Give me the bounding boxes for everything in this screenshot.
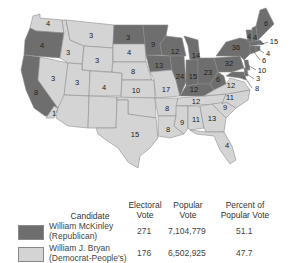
- percent-mckinley: 51.1: [236, 226, 253, 236]
- header-popular-line1: Popular: [168, 200, 208, 210]
- header-electoral-line2: Vote: [125, 210, 165, 220]
- header-popular-line2: Vote: [168, 210, 208, 220]
- header-percent-line2: Popular Vote: [215, 210, 275, 220]
- candidate-bryan: William J. Bryan (Democrat-People's): [49, 243, 127, 263]
- candidate-name: William J. Bryan: [49, 243, 127, 253]
- popular-vote-mckinley: 7,104,779: [168, 226, 206, 236]
- electoral-vote-mckinley: 271: [137, 226, 151, 236]
- percent-bryan: 47.7: [236, 248, 253, 258]
- results-table: Candidate Electoral Vote Popular Vote Pe…: [0, 0, 290, 263]
- header-popular-vote: Popular Vote: [168, 200, 208, 220]
- header-percent-popular: Percent of Popular Vote: [215, 200, 275, 220]
- popular-vote-bryan: 6,502,925: [168, 248, 206, 258]
- swatch-republican: [18, 225, 44, 240]
- candidate-party: (Democrat-People's): [49, 253, 127, 263]
- header-candidate: Candidate: [55, 211, 125, 221]
- header-electoral-line1: Electoral: [125, 200, 165, 210]
- candidate-party: (Republican): [49, 231, 113, 241]
- candidate-mckinley: William McKinley (Republican): [49, 221, 113, 241]
- electoral-vote-bryan: 176: [137, 248, 151, 258]
- candidate-name: William McKinley: [49, 221, 113, 231]
- header-percent-line1: Percent of: [215, 200, 275, 210]
- header-electoral-vote: Electoral Vote: [125, 200, 165, 220]
- swatch-democrat: [18, 247, 44, 262]
